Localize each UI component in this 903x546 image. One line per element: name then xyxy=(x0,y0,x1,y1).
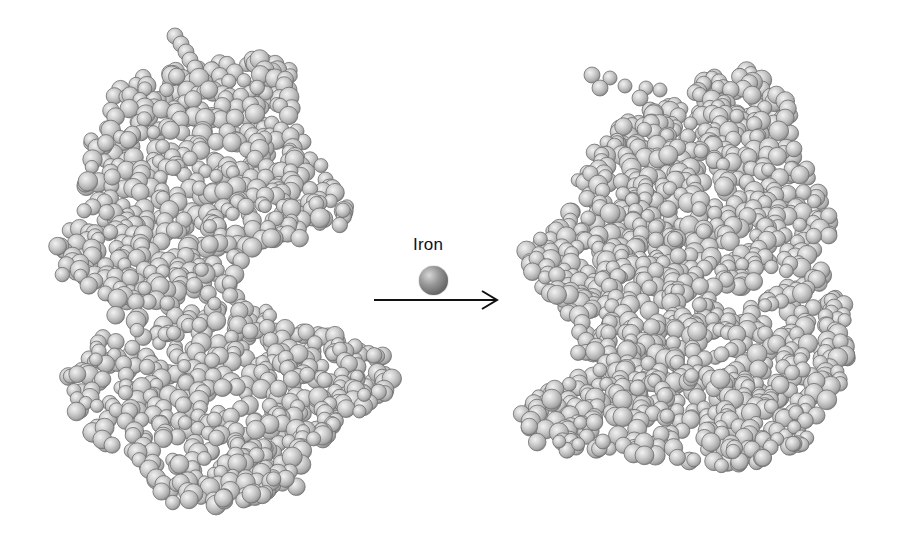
reaction-arrow-icon xyxy=(374,288,499,312)
protein-structure-after xyxy=(0,0,903,546)
iron-label: Iron xyxy=(413,235,443,255)
